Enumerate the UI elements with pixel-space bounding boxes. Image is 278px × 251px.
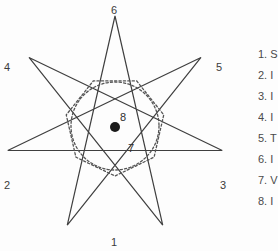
legend-item-number: 2. (258, 69, 267, 81)
vertex-label-3: 3 (220, 180, 226, 191)
legend-item-6: 6. I (258, 149, 278, 170)
legend-item-number: 4. (258, 111, 267, 123)
legend-item-7: 7. V (258, 170, 278, 191)
legend-item-5: 5. T (258, 128, 278, 149)
legend-item-4: 4. I (258, 107, 278, 128)
star-diagram-svg (0, 0, 240, 251)
center-point-dot (110, 122, 120, 132)
legend-item-text: S (270, 48, 277, 60)
legend-item-number: 3. (258, 90, 267, 102)
legend-item-8: 8. I (258, 191, 278, 209)
legend-item-text: I (270, 111, 273, 123)
legend-item-number: 5. (258, 132, 267, 144)
vertex-label-1: 1 (111, 237, 117, 248)
legend-item-number: 7. (258, 174, 267, 186)
legend-item-text: I (270, 90, 273, 102)
legend-list: 1. S 2. I 3. I 4. I 5. T 6. I 7. V 8. I (258, 44, 278, 209)
vertex-label-2: 2 (4, 180, 10, 191)
legend-item-number: 1. (258, 48, 267, 60)
vertex-label-6: 6 (111, 5, 117, 16)
legend-item-text: T (270, 132, 277, 144)
figure-page: 6 4 5 2 3 1 8 7 1. S 2. I 3. I 4. I 5. T (0, 0, 278, 251)
inner-label-8: 8 (120, 112, 126, 123)
legend-item-text: V (270, 174, 277, 186)
legend-item-text: I (270, 69, 273, 81)
legend-item-number: 8. (258, 195, 267, 207)
inner-label-7: 7 (128, 143, 134, 154)
legend-item-text: I (270, 153, 273, 165)
legend-item-text: I (270, 195, 273, 207)
legend-item-3: 3. I (258, 86, 278, 107)
legend-item-number: 6. (258, 153, 267, 165)
heptagram-outline (8, 16, 222, 225)
star-diagram: 6 4 5 2 3 1 8 7 (0, 0, 240, 251)
legend-item-2: 2. I (258, 65, 278, 86)
legend-item-1: 1. S (258, 44, 278, 65)
vertex-label-4: 4 (4, 62, 10, 73)
vertex-label-5: 5 (216, 62, 222, 73)
